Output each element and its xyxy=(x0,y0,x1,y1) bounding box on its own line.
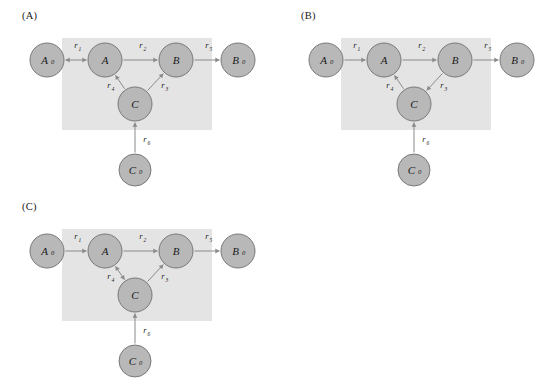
node-label: C xyxy=(129,355,137,367)
node-c0: C0 xyxy=(398,154,430,186)
node-label: B xyxy=(173,54,180,66)
node-label: A xyxy=(380,54,388,66)
rate-label-subscript: 4 xyxy=(112,277,115,283)
rate-label-r6: r6 xyxy=(143,325,150,337)
node-c: C xyxy=(118,87,152,121)
node-label: A xyxy=(40,54,48,66)
rate-label-subscript: 3 xyxy=(165,277,169,283)
node-label: C xyxy=(410,98,418,110)
rate-label-subscript: 1 xyxy=(358,46,361,52)
rate-label-subscript: 3 xyxy=(165,86,169,92)
node-b0: B0 xyxy=(221,43,255,77)
node-c: C xyxy=(118,278,152,312)
node-label: C xyxy=(129,164,137,176)
rate-label-subscript: 5 xyxy=(210,46,213,52)
node-a: A xyxy=(88,43,122,77)
node-label: B xyxy=(173,245,180,257)
node-label: C xyxy=(131,98,139,110)
rate-label-subscript: 2 xyxy=(423,46,426,52)
rate-label-subscript: 3 xyxy=(444,86,448,92)
rate-label-subscript: 4 xyxy=(112,86,115,92)
node-c: C xyxy=(397,87,431,121)
rate-label-subscript: 1 xyxy=(79,46,82,52)
node-label: A xyxy=(101,54,109,66)
node-label: A xyxy=(40,245,48,257)
node-label: B xyxy=(511,54,518,66)
node-b: B xyxy=(438,43,472,77)
node-c0: C0 xyxy=(119,345,151,377)
node-b0: B0 xyxy=(221,234,255,268)
panel-canvas-a: A0ABB0CC0r1r2r5r4r3r6 xyxy=(0,0,279,191)
node-label: B xyxy=(452,54,459,66)
rate-label-r6: r6 xyxy=(143,134,150,146)
rate-label-subscript: 6 xyxy=(427,140,430,146)
node-label: B xyxy=(232,54,239,66)
node-a0: A0 xyxy=(30,43,64,77)
node-a0: A0 xyxy=(309,43,343,77)
node-a0: A0 xyxy=(30,234,64,268)
rate-label-subscript: 6 xyxy=(148,140,151,146)
panel-a: (A)A0ABB0CC0r1r2r5r4r3r6 xyxy=(0,0,279,191)
rate-label-subscript: 6 xyxy=(148,331,151,337)
panel-c: (C)A0ABB0CC0r1r2r5r4r3r6 xyxy=(0,191,279,382)
panel-b: (B)A0ABB0CC0r1r2r5r4r3r6 xyxy=(279,0,558,191)
node-a: A xyxy=(88,234,122,268)
panel-canvas-b: A0ABB0CC0r1r2r5r4r3r6 xyxy=(279,0,558,191)
rate-label-subscript: 2 xyxy=(144,46,147,52)
rate-label-subscript: 2 xyxy=(144,237,147,243)
figure-root: (A)A0ABB0CC0r1r2r5r4r3r6(B)A0ABB0CC0r1r2… xyxy=(0,0,558,382)
node-c0: C0 xyxy=(119,154,151,186)
rate-label-subscript: 5 xyxy=(489,46,492,52)
rate-label-subscript: 1 xyxy=(79,237,82,243)
node-b: B xyxy=(159,234,193,268)
node-label: A xyxy=(101,245,109,257)
node-label: C xyxy=(131,289,139,301)
arrowhead-forward xyxy=(215,249,219,254)
node-b: B xyxy=(159,43,193,77)
panel-canvas-c: A0ABB0CC0r1r2r5r4r3r6 xyxy=(0,191,279,382)
rate-label-subscript: 4 xyxy=(391,86,394,92)
node-a: A xyxy=(367,43,401,77)
arrowhead-forward xyxy=(215,58,219,63)
arrowhead-forward xyxy=(494,58,498,63)
node-label: B xyxy=(232,245,239,257)
rate-label-subscript: 5 xyxy=(210,237,213,243)
node-label: A xyxy=(319,54,327,66)
rate-label-r6: r6 xyxy=(422,134,429,146)
node-b0: B0 xyxy=(500,43,534,77)
node-label: C xyxy=(408,164,416,176)
